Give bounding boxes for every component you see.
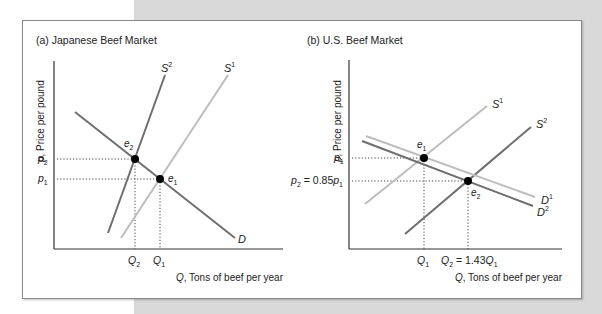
panel-a-guides [57, 159, 160, 249]
panel-b-equilibrium-e1 [420, 154, 428, 162]
panel-a-equilibrium-e2 [131, 155, 139, 163]
panel-b-tick-p2: p2 = 0.85p1 [290, 174, 343, 188]
panel-b-us-beef-market: (b) U.S. Beef Market p, Price per pound … [290, 34, 563, 283]
panel-a-y-axis-label: p, Price per pound [35, 80, 46, 163]
panel-a-demand-curve-d [75, 112, 235, 238]
panel-b-label-s2: S2 [536, 117, 547, 130]
panel-a-tick-p2: p2 [37, 152, 48, 166]
panel-a-tick-q1: Q1 [153, 254, 165, 268]
panel-a-x-axis-label: Q, Tons of beef per year [176, 272, 284, 283]
panel-b-label-e1: e1 [417, 139, 427, 152]
panel-a-equilibrium-e1 [156, 175, 164, 183]
panel-a-title: (a) Japanese Beef Market [36, 34, 157, 46]
panel-b-guides [352, 158, 468, 249]
panel-a-label-s1: S1 [224, 61, 235, 74]
panel-b-title: (b) U.S. Beef Market [307, 34, 403, 46]
panel-a-japanese-beef-market: (a) Japanese Beef Market p, Price per po… [35, 34, 284, 283]
panel-a-label-d: D [238, 233, 246, 245]
panel-b-label-s1: S1 [492, 97, 503, 110]
panel-b-x-axis-label: Q, Tons of beef per year [455, 272, 563, 283]
panel-a-tick-p1: p1 [37, 172, 48, 186]
panel-b-label-d2: D2 [537, 205, 549, 218]
panel-b-label-e2: e2 [471, 187, 481, 200]
panel-b-tick-q2: Q2 = 1.43Q1 [441, 254, 498, 268]
panel-a-label-e1: e1 [168, 173, 178, 186]
panel-a-tick-q2: Q2 [128, 254, 140, 268]
beef-market-figure: (a) Japanese Beef Market p, Price per po… [0, 0, 602, 314]
panel-a-label-s2: S2 [161, 61, 172, 74]
panel-a-supply-curve-s2 [108, 75, 165, 233]
panel-b-equilibrium-e2 [464, 177, 472, 185]
panel-b-tick-q1: Q1 [417, 254, 429, 268]
panel-a-label-e2: e2 [124, 138, 134, 151]
panel-b-demand-curve-d2 [362, 141, 533, 206]
